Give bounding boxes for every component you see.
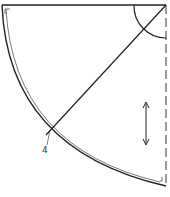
pattern-diagram: 4 <box>0 0 170 197</box>
corner-mark-bottom <box>160 177 162 181</box>
diagonal-line <box>46 5 166 135</box>
grainline-arrow-icon <box>143 102 149 145</box>
point-label-4: 4 <box>42 145 48 155</box>
